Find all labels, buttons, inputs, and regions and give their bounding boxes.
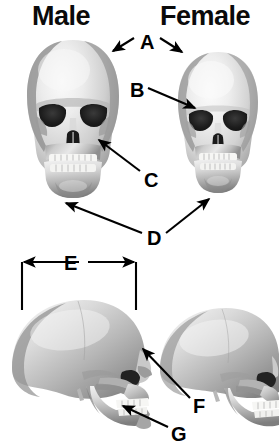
label-D: D bbox=[147, 228, 161, 248]
male-lateral-upper-teeth bbox=[116, 398, 149, 408]
label-G: G bbox=[171, 424, 187, 444]
figure-canvas bbox=[0, 0, 279, 447]
male-anterior-skull bbox=[27, 40, 119, 198]
female-lower-teeth bbox=[200, 163, 236, 170]
header-female: Female bbox=[160, 3, 250, 30]
male-lower-teeth bbox=[50, 164, 96, 172]
label-E: E bbox=[64, 253, 77, 273]
label-C: C bbox=[144, 170, 158, 190]
arrow-A-male bbox=[113, 38, 134, 51]
female-lateral-skull bbox=[160, 308, 279, 426]
label-F: F bbox=[193, 396, 205, 416]
skull-comparison-figure: Male Female A B C D E F G bbox=[0, 0, 279, 447]
female-anterior-skull bbox=[178, 52, 258, 193]
header-male: Male bbox=[32, 3, 90, 30]
label-B: B bbox=[130, 80, 144, 100]
arrow-D-female-chin bbox=[166, 199, 209, 233]
arrow-A-female bbox=[160, 38, 182, 52]
female-lateral-upper-teeth bbox=[252, 400, 279, 410]
arrow-D-male-chin bbox=[66, 203, 142, 233]
label-A: A bbox=[140, 32, 154, 52]
